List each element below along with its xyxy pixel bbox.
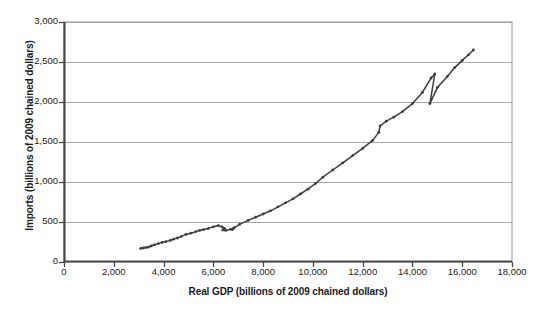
data-point-marker <box>421 91 424 94</box>
data-point-marker <box>299 193 302 196</box>
y-tick-label: 3,000 <box>16 15 58 26</box>
data-point-marker <box>254 216 257 219</box>
data-point-marker <box>139 247 142 250</box>
data-point-marker <box>314 182 317 185</box>
data-point-marker <box>467 53 470 56</box>
y-tick-label: 500 <box>16 215 58 226</box>
y-tick-label: 0 <box>16 255 58 266</box>
data-point-marker <box>401 110 404 113</box>
data-point-marker <box>172 238 175 241</box>
axis-tick-marks <box>59 23 513 268</box>
series-line <box>141 50 474 248</box>
data-series-imports-vs-gdp <box>139 49 475 250</box>
data-point-marker <box>233 226 236 229</box>
y-tick-label: 2,000 <box>16 95 58 106</box>
data-point-marker <box>153 243 156 246</box>
x-axis-title: Real GDP (billions of 2009 chained dolla… <box>64 286 512 297</box>
data-point-marker <box>190 232 193 235</box>
data-point-marker <box>142 247 145 250</box>
data-point-marker <box>150 245 153 248</box>
data-point-marker <box>361 147 364 150</box>
data-point-marker <box>321 176 324 179</box>
x-tick-label: 18,000 <box>482 266 539 277</box>
data-point-marker <box>180 235 183 238</box>
x-axis-tick-labels: 02,0004,0006,0008,00010,00012,00014,0001… <box>0 266 539 286</box>
data-point-marker <box>212 225 215 228</box>
data-point-marker <box>176 237 179 240</box>
data-point-marker <box>371 139 374 142</box>
data-point-marker <box>446 75 449 78</box>
data-point-marker <box>430 77 433 80</box>
plot-area <box>0 0 539 311</box>
data-point-marker <box>292 197 295 200</box>
data-point-marker <box>331 169 334 172</box>
data-point-marker <box>165 240 168 243</box>
data-point-marker <box>221 229 224 232</box>
data-point-marker <box>202 228 205 231</box>
data-point-marker <box>436 86 439 89</box>
data-point-marker <box>195 230 198 233</box>
data-point-marker <box>247 219 250 222</box>
data-point-marker <box>341 161 344 164</box>
y-tick-label: 1,000 <box>16 175 58 186</box>
data-point-marker <box>392 116 395 119</box>
data-point-marker <box>351 154 354 157</box>
data-point-marker <box>385 120 388 123</box>
data-point-marker <box>379 125 382 128</box>
data-point-marker <box>169 239 172 242</box>
data-point-marker <box>269 209 272 212</box>
data-point-marker <box>147 246 150 249</box>
data-point-marker <box>207 227 210 230</box>
data-point-marker <box>217 224 220 227</box>
data-point-marker <box>185 233 188 236</box>
chart-figure: Imports (billions of 2009 chained dollar… <box>0 0 539 311</box>
y-tick-label: 1,500 <box>16 135 58 146</box>
data-point-marker <box>277 205 280 208</box>
data-point-marker <box>238 223 241 226</box>
data-point-marker <box>453 66 456 69</box>
data-point-marker <box>198 229 201 232</box>
data-point-marker <box>307 188 310 191</box>
data-point-marker <box>472 49 475 52</box>
data-point-marker <box>161 241 164 244</box>
data-point-marker <box>428 102 431 105</box>
data-point-marker <box>411 102 414 105</box>
data-point-marker <box>224 229 227 232</box>
data-point-marker <box>433 73 436 76</box>
data-point-marker <box>284 201 287 204</box>
data-point-marker <box>157 242 160 245</box>
data-point-marker <box>144 246 147 249</box>
data-point-marker <box>231 228 234 231</box>
gridlines <box>64 23 512 223</box>
data-point-marker <box>377 131 380 134</box>
data-point-marker <box>461 59 464 62</box>
data-point-marker <box>221 225 224 228</box>
data-point-marker <box>262 213 265 216</box>
y-axis-tick-labels: 05001,0001,5002,0002,5003,000 <box>0 0 58 311</box>
y-tick-label: 2,500 <box>16 55 58 66</box>
